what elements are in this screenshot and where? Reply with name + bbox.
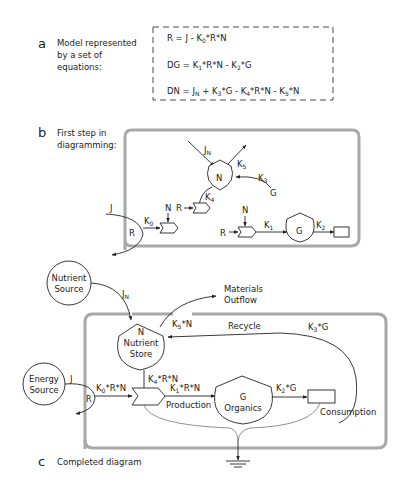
production-interaction-gate <box>132 388 165 405</box>
equation-dn: DN = JN + K3*G - K4*R*N - K5*N <box>167 86 299 97</box>
section-a-caption-line2: by a set of <box>57 50 103 60</box>
consumer-box <box>334 227 349 237</box>
consumption-label: Consumption <box>320 407 376 417</box>
jn-label: JN <box>203 145 211 156</box>
section-c-caption: Completed diagram <box>57 457 141 467</box>
energy-systems-diagram-figure: a Model represented by a set of equation… <box>0 0 399 489</box>
section-c-letter: c <box>38 454 45 469</box>
n-input2-label: N <box>242 205 248 215</box>
r-input-k4-label: R <box>176 203 182 213</box>
organics-line1: G <box>240 392 247 402</box>
section-a-caption-line3: equations: <box>57 62 102 72</box>
k0-interaction-gate <box>160 223 178 233</box>
k3g-label: K3*G <box>308 322 328 333</box>
nutrient-store-line3: Store <box>130 349 152 359</box>
r-source-label: R <box>129 228 135 238</box>
materials-outflow-line2: Outflow <box>224 295 257 305</box>
nutrient-store-line1: N <box>138 327 144 337</box>
k4-interaction-gate <box>193 203 210 213</box>
production-label: Production <box>166 400 211 410</box>
k1-label: K1 <box>264 220 274 231</box>
k5-label: K5 <box>237 159 247 170</box>
k4-label: K4 <box>205 192 215 203</box>
nutrient-source-line2: Source <box>54 284 83 294</box>
section-b-caption-line2: diagramming: <box>57 140 117 150</box>
k1rn-label: K1*R*N <box>170 383 200 394</box>
k2-label: K2 <box>316 220 326 231</box>
equation-r: R = J - K0*R*N <box>167 33 227 44</box>
equation-dg: DG = K1*R*N - K2*G <box>167 60 252 71</box>
j-label: J <box>109 203 113 213</box>
energy-source-line1: Energy <box>29 374 59 384</box>
r-input2-label: R <box>220 228 226 238</box>
section-b-letter: b <box>38 125 46 140</box>
nutrient-store-line2: Nutrient <box>124 338 160 348</box>
recycle-label: Recycle <box>228 321 261 331</box>
k2g-label: K2*G <box>276 383 296 394</box>
j-label-c: J <box>69 374 73 384</box>
g-store-label: G <box>296 226 303 236</box>
consumption-box <box>308 390 335 403</box>
energy-source-line2: Source <box>29 385 58 395</box>
k3-label: K3 <box>258 173 268 184</box>
n-input1-label: N <box>165 203 171 213</box>
jn-label-c: JN <box>121 289 129 300</box>
k0rn-label: K0*R*N <box>96 383 126 394</box>
n-storage-label: N <box>216 173 222 183</box>
section-c: Nutrient Source JN Materials Outflow K5*… <box>23 261 386 469</box>
k1-interaction-gate <box>238 227 256 237</box>
energy-source-circle <box>23 363 65 405</box>
section-a: a Model represented by a set of equation… <box>38 27 333 100</box>
nutrient-source-line1: Nutrient <box>52 273 88 283</box>
nutrient-source-circle <box>47 261 91 305</box>
materials-outflow-line1: Materials <box>224 284 264 294</box>
k5n-label: K5*N <box>172 319 192 330</box>
section-a-letter: a <box>38 36 46 51</box>
section-b-caption-line1: First step in <box>57 128 106 138</box>
r-label-c: R <box>86 395 92 404</box>
heat-sink-ground-icon <box>226 461 250 467</box>
organics-line2: Organics <box>224 403 262 413</box>
k0-label: K0 <box>144 216 154 227</box>
section-a-caption-line1: Model represented <box>57 38 137 48</box>
g-source-label: G <box>270 188 277 198</box>
section-b: b First step in diagramming: JN K5 N K3 … <box>38 125 359 255</box>
